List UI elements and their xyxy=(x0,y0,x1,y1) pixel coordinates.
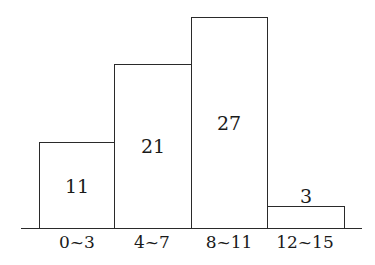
tick-label-12-15: 12~15 xyxy=(265,232,345,252)
tick-label-8-11: 8~11 xyxy=(189,232,269,252)
data-label-4-7: 21 xyxy=(115,135,191,157)
data-label-0-3: 11 xyxy=(39,175,115,197)
bar-12-15 xyxy=(267,206,345,228)
x-axis xyxy=(21,228,362,229)
data-label-8-11: 27 xyxy=(191,112,267,134)
data-label-12-15: 3 xyxy=(268,185,344,207)
tick-label-4-7: 4~7 xyxy=(112,232,192,252)
tick-label-0-3: 0~3 xyxy=(37,232,117,252)
